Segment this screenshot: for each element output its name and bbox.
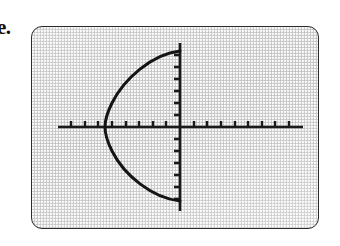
figure-root: e. <box>0 0 340 246</box>
plot-area <box>32 27 319 229</box>
choice-label: e. <box>0 12 27 42</box>
calculator-screen <box>31 26 319 229</box>
